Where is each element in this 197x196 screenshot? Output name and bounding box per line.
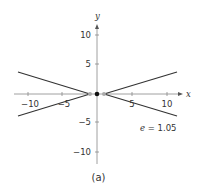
x-axis-arrow-icon (178, 92, 183, 96)
eccentricity-annotation: e = 1.05 (140, 123, 176, 133)
y-axis-arrow-icon (95, 24, 99, 29)
y-tick-label: 10 (80, 30, 91, 40)
y-tick-label: 5 (86, 59, 91, 69)
y-axis-label: y (94, 11, 100, 21)
vertex-left-marker (88, 92, 92, 96)
vertex-right-marker (102, 92, 106, 96)
x-tick-label: 5 (129, 99, 134, 109)
x-tick-label: 10 (162, 99, 173, 109)
hyperbola-right-upper (104, 72, 177, 94)
hyperbola-left-upper (18, 72, 90, 94)
hyperbola-chart: −10 −5 5 10 10 5 −5 −10 x y e = 1.05 (0, 0, 197, 196)
x-axis-label: x (186, 89, 191, 99)
y-tick-label: −10 (73, 147, 91, 157)
y-tick-label: −5 (78, 117, 91, 127)
figure-caption: (a) (0, 172, 197, 183)
x-tick-label: −10 (21, 99, 39, 109)
focus-marker (95, 92, 100, 97)
